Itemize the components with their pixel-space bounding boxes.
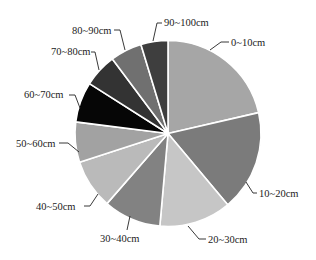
slice-label: 20~30cm	[208, 234, 248, 245]
slice-label: 70~80cm	[51, 46, 91, 57]
slice-label: 10~20cm	[259, 188, 299, 199]
slice-label: 60~70cm	[24, 89, 64, 100]
leader-line	[114, 30, 125, 50]
pie-slices	[75, 41, 261, 227]
slice-label: 90~100cm	[164, 17, 209, 28]
leader-line	[210, 42, 229, 50]
leader-line	[246, 182, 257, 193]
slice-label: 0~10cm	[231, 37, 265, 48]
slice-label: 50~60cm	[16, 138, 56, 149]
slice-label: 80~90cm	[72, 25, 112, 36]
leader-line	[188, 226, 206, 239]
slice-label: 30~40cm	[100, 233, 140, 244]
leader-line	[84, 194, 98, 206]
pie-chart: 0~10cm10~20cm20~30cm30~40cm40~50cm50~60c…	[0, 0, 316, 260]
leader-line	[153, 23, 162, 41]
leader-line	[91, 52, 99, 70]
slice-label: 40~50cm	[36, 201, 76, 212]
